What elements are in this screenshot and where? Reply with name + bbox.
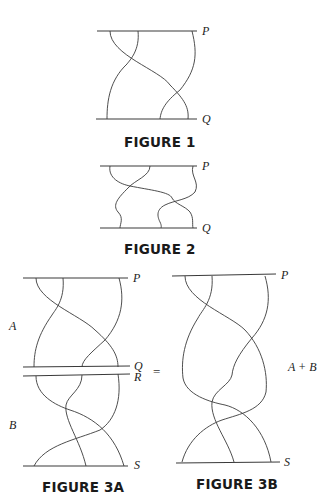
fig1-caption: FIGURE 1 (124, 134, 196, 150)
fig1-strand-1 (110, 31, 188, 119)
fig3a-a-strand-2 (34, 278, 63, 367)
fig3b-caption: FIGURE 3B (196, 476, 278, 492)
fig3a-b-strand-3 (34, 374, 119, 466)
fig3b-strand-1 (182, 276, 266, 462)
braid-diagrams: P Q FIGURE 1 P Q FIGURE 2 P Q R S A B FI… (0, 0, 336, 501)
fig1-strand-3 (160, 31, 195, 119)
figure-3a: P Q R S A B FIGURE 3A (8, 271, 143, 495)
fig3a-bar-q (23, 366, 130, 367)
figure-3b: P S A + B FIGURE 3B (172, 268, 317, 492)
fig1-label-p: P (201, 24, 210, 38)
fig3a-label-r: R (133, 370, 142, 384)
fig1-label-q: Q (202, 112, 211, 126)
fig3a-label-s: S (134, 458, 140, 472)
equals-sign: = (153, 364, 160, 379)
fig2-strand-3 (158, 166, 196, 228)
fig3a-a-strand-1 (36, 278, 118, 367)
figure-2: P Q FIGURE 2 (100, 159, 211, 257)
fig3a-b-strand-2 (66, 375, 86, 466)
fig3b-strand-3 (212, 276, 268, 462)
fig3b-label-p: P (280, 268, 289, 282)
fig2-label-q: Q (202, 221, 211, 235)
fig2-caption: FIGURE 2 (124, 241, 196, 257)
fig3a-label-p: P (132, 271, 141, 285)
fig3a-b-strand-1 (36, 376, 124, 466)
fig2-strand-2 (116, 166, 150, 228)
fig1-strand-2 (107, 31, 138, 119)
fig3b-side-label-a-plus-b: A + B (287, 360, 317, 374)
fig3b-bottom-bar-s (176, 462, 280, 463)
fig3a-side-label-b: B (9, 418, 17, 432)
fig3b-top-bar-p (172, 274, 276, 276)
fig2-label-p: P (201, 159, 210, 173)
fig3a-bar-r (23, 374, 130, 376)
figure-1: P Q FIGURE 1 (96, 24, 211, 150)
fig3b-strand-2 (182, 276, 271, 462)
fig3a-side-label-a: A (8, 319, 17, 333)
fig3a-caption: FIGURE 3A (42, 479, 125, 495)
fig2-strand-1 (110, 166, 193, 228)
fig3b-label-s: S (284, 455, 290, 469)
fig3a-a-strand-3 (82, 278, 122, 367)
